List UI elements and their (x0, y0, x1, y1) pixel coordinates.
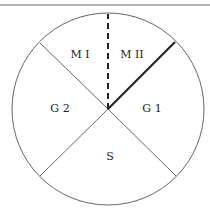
cell-cycle-diagram: M I M II G 1 S G 2 (0, 0, 210, 213)
divider-g2-s (40, 109, 108, 176)
label-mii: M II (120, 48, 143, 61)
label-g2: G 2 (50, 102, 69, 115)
label-s: S (106, 150, 114, 163)
label-mi: M I (70, 48, 89, 61)
divider-s-g1 (108, 109, 176, 176)
label-g1: G 1 (142, 102, 161, 115)
